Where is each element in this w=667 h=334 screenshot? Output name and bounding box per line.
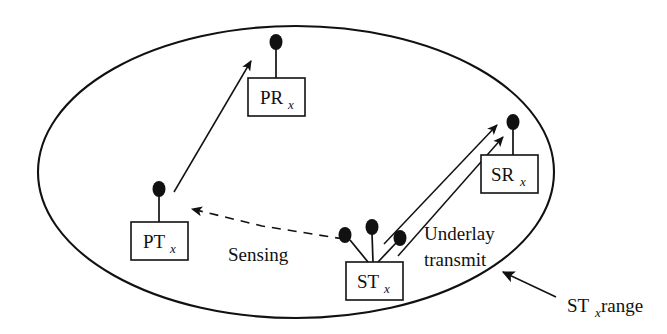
stx-antenna-bulb-center	[366, 219, 379, 235]
stx-subscript: x	[383, 281, 390, 296]
coverage-range-ellipse	[38, 26, 554, 318]
prx-subscript: x	[287, 97, 294, 112]
stx-antenna-stem-left	[350, 240, 368, 262]
range-label-suffix: range	[601, 295, 643, 316]
node-srx[interactable]: SR x	[481, 114, 538, 193]
node-prx[interactable]: PR x	[248, 34, 305, 116]
annotation-underlay-line1: Underlay	[424, 223, 495, 244]
range-label-prefix: ST	[567, 295, 590, 316]
annotation-underlay-line2: transmit	[424, 249, 487, 270]
prx-antenna-bulb	[270, 34, 283, 50]
ptx-antenna-bulb	[153, 181, 166, 197]
node-ptx[interactable]: PT x	[131, 181, 188, 260]
prx-label: PR	[260, 87, 284, 108]
link-sensing	[192, 209, 344, 239]
stx-antenna-stem-right	[378, 243, 396, 262]
ptx-label: PT	[143, 231, 166, 252]
link-primary-transmission	[174, 61, 251, 192]
stx-label: ST	[357, 271, 380, 292]
stx-antenna-bulb-right	[394, 230, 407, 246]
figure-root: PR x PT x ST x SR x	[0, 0, 667, 334]
stx-antenna-stem-center	[372, 233, 373, 262]
srx-subscript: x	[519, 174, 526, 189]
srx-antenna-bulb	[507, 114, 520, 130]
annotation-stx-range: ST x range	[567, 295, 643, 320]
srx-label: SR	[491, 164, 515, 185]
ptx-subscript: x	[169, 241, 176, 256]
stx-antenna-bulb-left	[339, 227, 352, 243]
range-label-subscript: x	[594, 305, 601, 320]
link-range-pointer	[503, 272, 556, 297]
network-diagram-canvas: PR x PT x ST x SR x	[0, 0, 667, 334]
annotation-sensing: Sensing	[228, 244, 289, 265]
